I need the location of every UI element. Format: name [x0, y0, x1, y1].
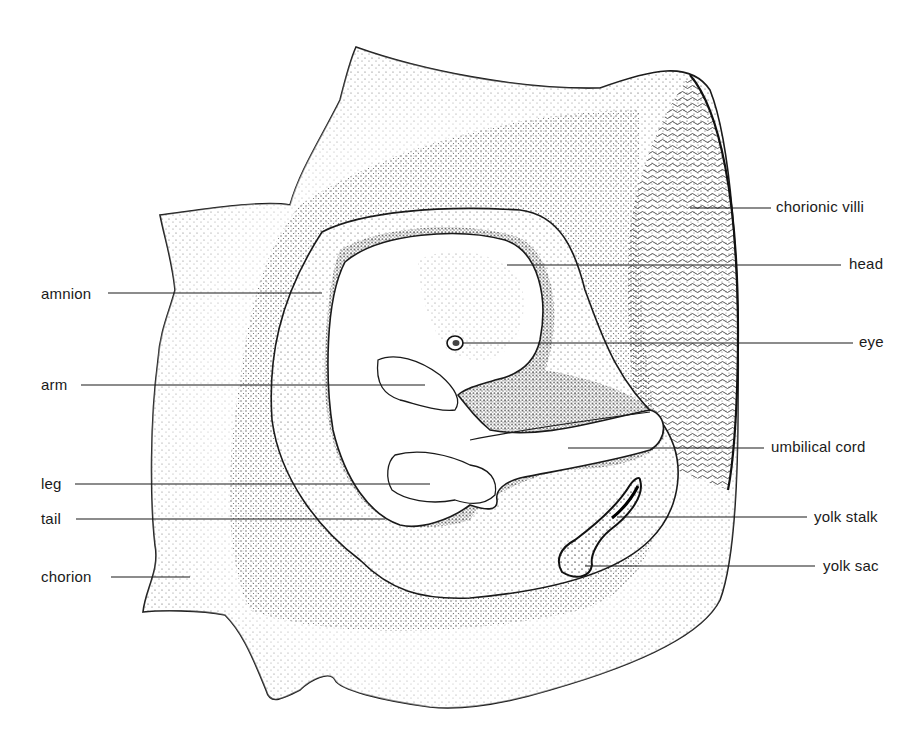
label-yolk-stalk: yolk stalk [814, 508, 878, 526]
label-leg: leg [41, 475, 62, 493]
label-yolk-sac: yolk sac [823, 557, 879, 575]
label-eye: eye [859, 333, 884, 351]
label-tail: tail [41, 510, 61, 528]
label-arm: arm [41, 376, 67, 394]
label-amnion: amnion [41, 285, 91, 303]
embryo-diagram [0, 0, 919, 738]
label-head: head [849, 255, 883, 273]
label-chorion: chorion [41, 568, 92, 586]
label-umbilical-cord: umbilical cord [771, 438, 866, 456]
label-chorionic-villi: chorionic villi [776, 198, 864, 216]
